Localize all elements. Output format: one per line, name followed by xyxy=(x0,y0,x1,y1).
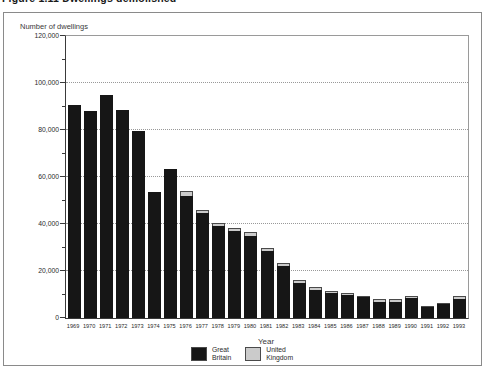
legend-label-united-kingdom: UnitedKingdom xyxy=(266,346,293,362)
y-major-tick-20000 xyxy=(60,270,65,271)
y-tick-label-0: 0 xyxy=(25,314,59,321)
legend-label-great-britain: GreatBritain xyxy=(212,346,231,362)
bar-great-britain-1970 xyxy=(84,111,97,318)
x-tick-label-1991: 1991 xyxy=(421,323,433,329)
y-tick-label-120000: 120,000 xyxy=(25,32,59,39)
x-tick-label-1974: 1974 xyxy=(147,323,159,329)
bar-group-1988 xyxy=(373,299,386,318)
x-tick-label-1979: 1979 xyxy=(228,323,240,329)
bar-great-britain-1993 xyxy=(453,299,466,319)
plot-area xyxy=(65,35,469,319)
bar-great-britain-1973 xyxy=(132,131,145,318)
bar-group-1969 xyxy=(68,105,81,318)
y-tick-label-60000: 60,000 xyxy=(25,173,59,180)
x-tick-label-1986: 1986 xyxy=(340,323,352,329)
bar-great-britain-1971 xyxy=(100,95,113,318)
y-minor-tick-110000 xyxy=(62,59,65,60)
bar-group-1974 xyxy=(148,192,161,318)
y-major-tick-40000 xyxy=(60,223,65,224)
x-tick-label-1969: 1969 xyxy=(67,323,79,329)
bar-great-britain-1983 xyxy=(293,283,306,318)
bar-group-1990 xyxy=(405,296,418,318)
y-minor-tick-50000 xyxy=(62,200,65,201)
x-tick-label-1988: 1988 xyxy=(372,323,384,329)
x-tick-label-1982: 1982 xyxy=(276,323,288,329)
bar-great-britain-1972 xyxy=(116,110,129,318)
x-tick-label-1975: 1975 xyxy=(163,323,175,329)
x-tick-label-1980: 1980 xyxy=(244,323,256,329)
bar-great-britain-1981 xyxy=(261,251,274,318)
legend-item-great-britain: GreatBritain xyxy=(191,346,231,362)
x-tick-label-1978: 1978 xyxy=(212,323,224,329)
bar-group-1970 xyxy=(84,111,97,318)
bar-group-1980 xyxy=(244,232,257,318)
great-britain-swatch-icon xyxy=(191,347,207,361)
bar-great-britain-1980 xyxy=(244,236,257,318)
x-tick-label-1985: 1985 xyxy=(324,323,336,329)
bar-group-1983 xyxy=(293,280,306,318)
bar-group-1984 xyxy=(309,287,322,318)
y-major-tick-120000 xyxy=(60,35,65,36)
bar-group-1985 xyxy=(325,291,338,318)
y-tick-label-20000: 20,000 xyxy=(25,267,59,274)
x-tick-label-1992: 1992 xyxy=(437,323,449,329)
bar-group-1989 xyxy=(389,299,402,318)
y-major-tick-80000 xyxy=(60,129,65,130)
bar-great-britain-1986 xyxy=(341,295,354,318)
x-tick-label-1971: 1971 xyxy=(99,323,111,329)
x-tick-label-1981: 1981 xyxy=(260,323,272,329)
y-minor-tick-10000 xyxy=(62,294,65,295)
legend: GreatBritain UnitedKingdom xyxy=(0,346,484,362)
bar-great-britain-1989 xyxy=(389,302,402,318)
bar-great-britain-1991 xyxy=(421,307,434,318)
bar-group-1978 xyxy=(212,223,225,318)
x-tick-label-1970: 1970 xyxy=(83,323,95,329)
bar-great-britain-1976 xyxy=(180,196,193,318)
bar-great-britain-1982 xyxy=(277,266,290,318)
x-tick-label-1990: 1990 xyxy=(404,323,416,329)
united-kingdom-swatch-icon xyxy=(245,347,261,361)
bar-great-britain-1978 xyxy=(212,226,225,318)
bar-group-1976 xyxy=(180,191,193,318)
y-axis-title: Number of dwellings xyxy=(20,22,88,31)
bar-group-1979 xyxy=(228,228,241,318)
bar-group-1975 xyxy=(164,169,177,318)
bar-great-britain-1975 xyxy=(164,169,177,318)
bar-group-1991 xyxy=(421,306,434,318)
y-major-tick-60000 xyxy=(60,176,65,177)
x-axis-title: Year xyxy=(65,337,467,346)
bar-group-1977 xyxy=(196,210,209,318)
x-tick-label-1987: 1987 xyxy=(356,323,368,329)
x-tick-label-1977: 1977 xyxy=(195,323,207,329)
bar-group-1982 xyxy=(277,263,290,318)
gridline-100000 xyxy=(66,82,468,83)
y-tick-label-40000: 40,000 xyxy=(25,220,59,227)
bar-great-britain-1979 xyxy=(228,231,241,318)
bar-group-1993 xyxy=(453,296,466,318)
figure-page: { "figure": { "title_partial": "Figure 1… xyxy=(0,0,484,369)
bar-group-1986 xyxy=(341,293,354,318)
bar-great-britain-1985 xyxy=(325,293,338,318)
bar-group-1973 xyxy=(132,131,145,318)
legend-item-united-kingdom: UnitedKingdom xyxy=(245,346,293,362)
x-tick-label-1993: 1993 xyxy=(453,323,465,329)
bar-great-britain-1977 xyxy=(196,213,209,318)
bar-group-1971 xyxy=(100,95,113,318)
bar-group-1981 xyxy=(261,248,274,319)
bar-group-1987 xyxy=(357,296,370,318)
x-tick-label-1989: 1989 xyxy=(388,323,400,329)
bar-great-britain-1992 xyxy=(437,304,450,318)
x-tick-label-1983: 1983 xyxy=(292,323,304,329)
bar-great-britain-1990 xyxy=(405,298,418,318)
bar-great-britain-1969 xyxy=(68,105,81,318)
y-minor-tick-30000 xyxy=(62,247,65,248)
y-minor-tick-70000 xyxy=(62,153,65,154)
y-tick-label-80000: 80,000 xyxy=(25,126,59,133)
bar-great-britain-1984 xyxy=(309,290,322,318)
x-tick-label-1976: 1976 xyxy=(179,323,191,329)
bar-group-1992 xyxy=(437,303,450,318)
x-tick-label-1973: 1973 xyxy=(131,323,143,329)
y-major-tick-0 xyxy=(60,317,65,318)
bar-great-britain-1988 xyxy=(373,302,386,318)
y-tick-label-100000: 100,000 xyxy=(25,79,59,86)
